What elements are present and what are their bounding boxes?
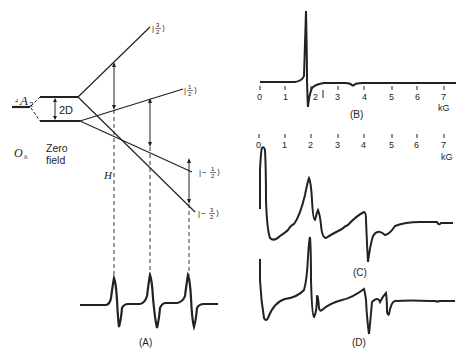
svg-text:3: 3 — [335, 92, 340, 102]
connector-lower — [31, 108, 40, 121]
ket-minus-1-2: | − 1 2 ⟩ — [199, 166, 220, 179]
svg-text:2: 2 — [156, 29, 160, 35]
spectrum-b-trace — [260, 11, 456, 107]
axis-c-ticks — [259, 134, 444, 138]
svg-text:−: − — [202, 168, 207, 177]
svg-text:2: 2 — [210, 214, 214, 220]
svg-text:0: 0 — [256, 140, 261, 150]
spectrum-a-trace — [80, 275, 218, 328]
arrowhead-icon — [187, 158, 191, 163]
svg-text:|: | — [199, 168, 201, 177]
ket-3-2: | 3 2 ⟩ — [152, 22, 165, 35]
field-label: H — [103, 169, 113, 181]
panel-b: 0 1 2 3 4 5 6 7 kG (B) — [257, 11, 456, 120]
svg-text:−: − — [201, 209, 206, 218]
svg-text:6: 6 — [415, 92, 420, 102]
zero-field-label-2: field — [46, 154, 65, 166]
panel-b-label: (B) — [350, 109, 363, 120]
svg-text:2: 2 — [313, 92, 318, 102]
svg-text:1: 1 — [283, 92, 288, 102]
zero-field-label-1: Zero — [46, 142, 68, 154]
svg-text:5: 5 — [389, 140, 394, 150]
svg-text:3: 3 — [210, 207, 214, 213]
symmetry-subscript: h — [24, 153, 28, 161]
ground-state-label: A — [19, 93, 28, 108]
svg-text:4: 4 — [361, 140, 366, 150]
ket-minus-3-2: | − 3 2 ⟩ — [198, 207, 219, 220]
ket-1-2: | 1 2 ⟩ — [184, 84, 197, 97]
svg-text:1: 1 — [211, 166, 215, 172]
arrowhead-icon — [53, 116, 57, 120]
axis-c-labels: 0 1 2 3 4 5 6 7 kG — [256, 140, 453, 162]
ground-state-subscript: 2 — [29, 100, 34, 109]
svg-text:|: | — [184, 86, 186, 95]
panel-d: (D) — [260, 237, 455, 348]
level-line-minus-3-2 — [78, 97, 195, 212]
svg-text:1: 1 — [282, 140, 287, 150]
symmetry-label: O — [14, 146, 23, 160]
arrowhead-icon — [112, 105, 116, 110]
svg-text:⟩: ⟩ — [194, 86, 197, 95]
level-line-1-2 — [80, 89, 183, 121]
panel-a-label: (A) — [139, 337, 152, 348]
svg-text:2: 2 — [308, 140, 313, 150]
svg-text:4: 4 — [362, 92, 367, 102]
svg-text:|: | — [152, 24, 154, 33]
spectrum-d-trace — [260, 237, 455, 334]
svg-text:6: 6 — [414, 140, 419, 150]
panel-c-label: (C) — [353, 267, 367, 278]
arrowhead-icon — [148, 142, 152, 147]
svg-text:0: 0 — [257, 92, 262, 102]
svg-text:7: 7 — [441, 140, 446, 150]
svg-text:|: | — [198, 209, 200, 218]
svg-text:⟩: ⟩ — [217, 168, 220, 177]
svg-text:2: 2 — [211, 173, 215, 179]
svg-text:2: 2 — [188, 91, 192, 97]
ground-state-superscript: 4 — [15, 98, 18, 104]
svg-text:3: 3 — [156, 22, 160, 28]
arrowhead-icon — [53, 98, 57, 102]
svg-text:7: 7 — [441, 92, 446, 102]
svg-text:⟩: ⟩ — [216, 209, 219, 218]
level-line-minus-1-2 — [80, 121, 192, 172]
svg-text:⟩: ⟩ — [162, 24, 165, 33]
svg-text:1: 1 — [188, 84, 192, 90]
splitting-label: 2D — [59, 104, 73, 116]
epr-figure: 4 A 2 2D O h Zero field H | 3 2 ⟩ | 1 2 … — [0, 0, 467, 358]
energy-level-diagram: 4 A 2 2D O h Zero field H | 3 2 ⟩ | 1 2 … — [12, 22, 220, 348]
spectrum-c-trace — [260, 147, 453, 262]
svg-text:5: 5 — [389, 92, 394, 102]
svg-text:kG: kG — [441, 152, 453, 162]
svg-text:3: 3 — [335, 140, 340, 150]
svg-text:kG: kG — [438, 103, 450, 113]
arrowhead-icon — [187, 199, 191, 204]
panel-d-label: (D) — [352, 337, 366, 348]
panel-c: 0 1 2 3 4 5 6 7 kG (C) — [256, 134, 453, 278]
